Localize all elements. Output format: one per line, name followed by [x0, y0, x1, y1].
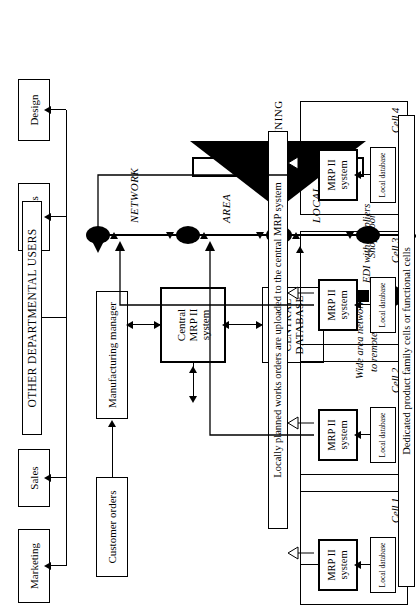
- diagram-root: Marketing Sales Accounts Design OTHER DE…: [0, 0, 416, 615]
- shopfloor-group-label: Dedicated product family cells or functi…: [401, 247, 413, 455]
- shopfloor-group-bar: Dedicated product family cells or functi…: [398, 115, 415, 587]
- cell-node-links: [0, 0, 416, 615]
- shop-floor-caption: Shop floor: [366, 214, 377, 258]
- figure-canvas: Marketing Sales Accounts Design OTHER DE…: [0, 0, 416, 615]
- shop-floor-caption-text: Shop floor: [366, 214, 377, 258]
